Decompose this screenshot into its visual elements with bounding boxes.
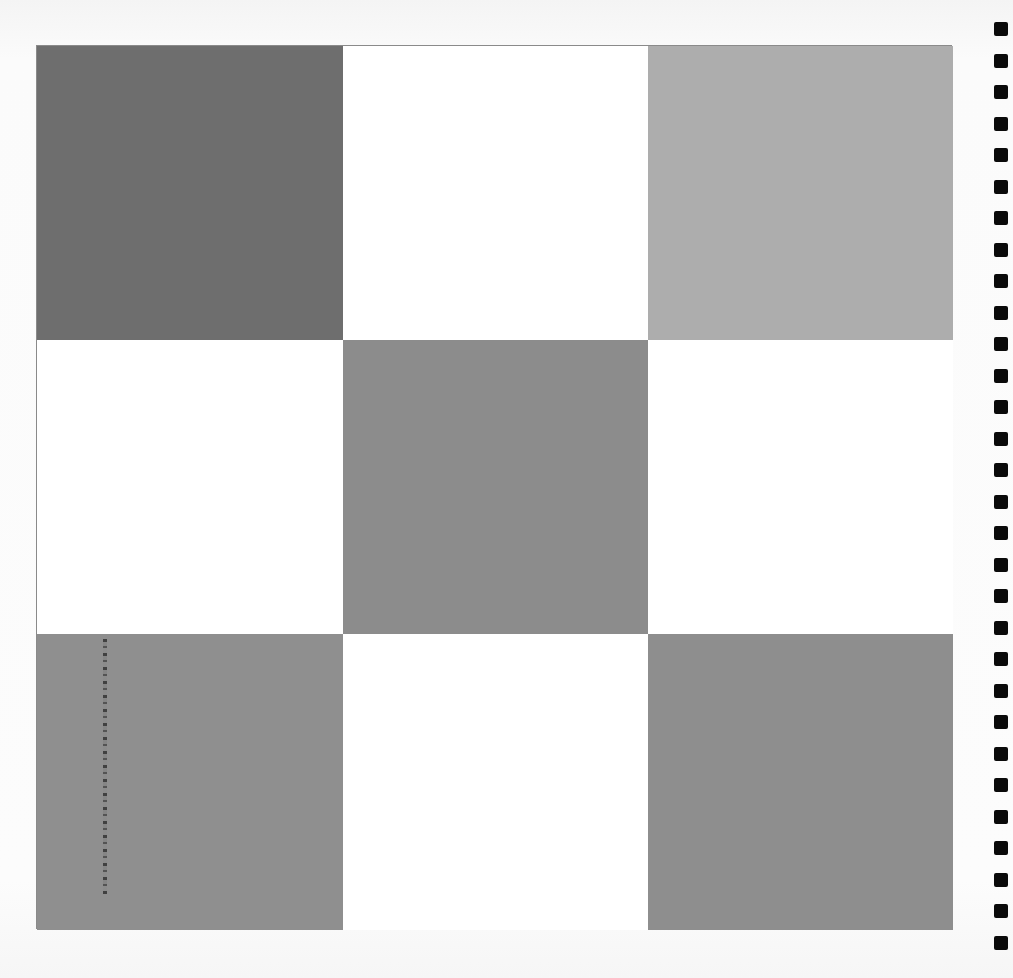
scan-artifact-streak xyxy=(103,639,107,894)
registration-mark xyxy=(994,684,1008,698)
registration-mark xyxy=(994,432,1008,446)
grayscale-checker-grid xyxy=(36,45,952,929)
registration-mark xyxy=(994,337,1008,351)
registration-mark xyxy=(994,22,1008,36)
grid-cell-medium-gray xyxy=(343,340,648,634)
registration-mark xyxy=(994,180,1008,194)
registration-mark xyxy=(994,117,1008,131)
registration-mark xyxy=(994,274,1008,288)
registration-mark xyxy=(994,810,1008,824)
grid-cell-white xyxy=(37,340,343,634)
registration-mark xyxy=(994,211,1008,225)
grid-cell-medium-gray xyxy=(37,634,343,930)
registration-mark xyxy=(994,369,1008,383)
registration-mark xyxy=(994,495,1008,509)
registration-mark xyxy=(994,526,1008,540)
grid-cell-light-gray xyxy=(648,46,953,340)
registration-mark xyxy=(994,243,1008,257)
registration-mark xyxy=(994,873,1008,887)
scanned-sheet xyxy=(0,0,1013,978)
registration-mark xyxy=(994,558,1008,572)
grid-cell-white xyxy=(343,46,648,340)
registration-mark xyxy=(994,463,1008,477)
registration-mark xyxy=(994,841,1008,855)
grid-cell-white xyxy=(648,340,953,634)
registration-mark xyxy=(994,778,1008,792)
registration-mark xyxy=(994,936,1008,950)
registration-mark xyxy=(994,904,1008,918)
registration-mark xyxy=(994,621,1008,635)
registration-mark xyxy=(994,148,1008,162)
registration-mark-strip xyxy=(994,22,1008,972)
registration-mark xyxy=(994,652,1008,666)
registration-mark xyxy=(994,400,1008,414)
registration-mark xyxy=(994,747,1008,761)
registration-mark xyxy=(994,306,1008,320)
registration-mark xyxy=(994,85,1008,99)
grid-cell-medium-gray xyxy=(648,634,953,930)
registration-mark xyxy=(994,54,1008,68)
grid-cell-white xyxy=(343,634,648,930)
registration-mark xyxy=(994,589,1008,603)
grid-cell-dark-gray xyxy=(37,46,343,340)
registration-mark xyxy=(994,715,1008,729)
